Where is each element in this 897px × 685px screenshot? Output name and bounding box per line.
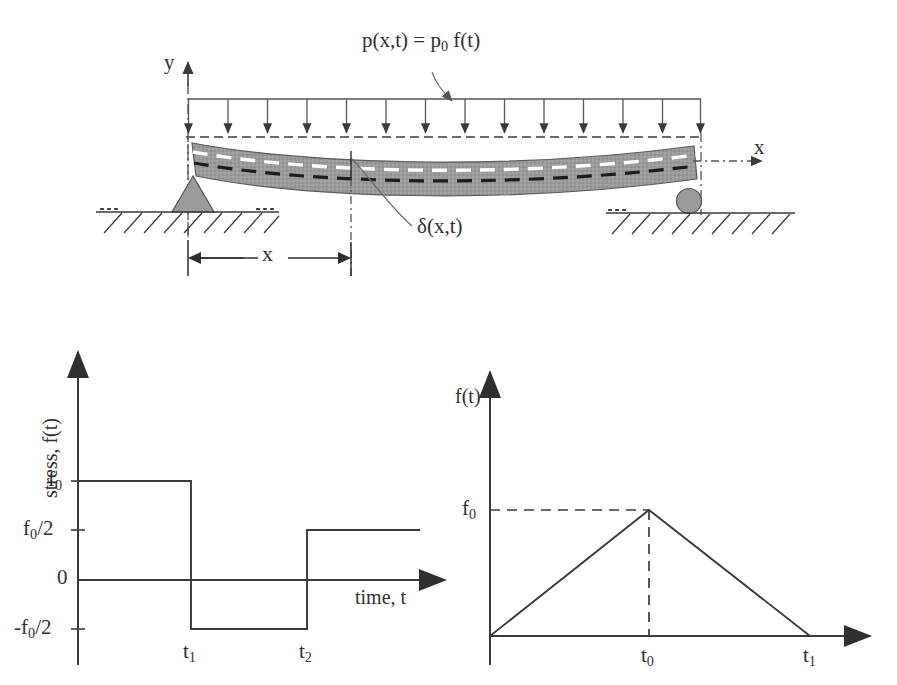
ytick-nf0h-rhs: /2 (35, 615, 51, 639)
r-xtick-t0-sub: 0 (647, 653, 654, 669)
ytick-f0h-lhs: f (23, 516, 30, 540)
ytick-f0h-rhs: /2 (37, 516, 53, 540)
chart-left-ytick-neg-f0-half: -f0/2 (14, 617, 51, 640)
ground-hatch-left (104, 213, 279, 233)
chart-left-x-axis-label: time, t (355, 587, 406, 607)
chart-right-y-axis-label: f(t) (455, 386, 481, 406)
beam-y-axis-label: y (164, 52, 175, 73)
dimension-x-label: x (262, 243, 273, 265)
deflection-label: δ(x,t) (417, 216, 462, 237)
ground-hatch-right (612, 214, 790, 234)
r-ytick-f0-sub: 0 (469, 506, 476, 522)
xtick-t1-sub: 1 (189, 649, 196, 665)
load-equation-sub: 0 (441, 38, 448, 54)
load-equation-label: p(x,t) = p0 f(t) (362, 30, 480, 53)
load-equation-rhs: f(t) (448, 28, 480, 52)
figure-root: p(x,t) = p0 f(t) y x δ(x,t) x stress, f(… (0, 0, 897, 685)
chart-left-group (71, 352, 445, 665)
chart-left-ytick-f0-half: f0/2 (23, 518, 53, 541)
chart-left-xtick-t2: t2 (299, 641, 312, 664)
chart-right-xtick-t1: t1 (803, 645, 816, 668)
beam-x-axis-label: x (754, 137, 765, 158)
distributed-load-arrows (189, 99, 701, 133)
xtick-t2-sub: 2 (305, 649, 312, 665)
chart-right-group (490, 372, 870, 665)
chart-left-ytick-f0: f0 (48, 469, 62, 492)
chart-right-ytick-f0: f0 (462, 498, 476, 521)
pin-support (172, 176, 214, 212)
ytick-nf0h-lhs: -f (14, 615, 28, 639)
figure-canvas (0, 0, 897, 685)
load-equation-lhs: p(x,t) = p (362, 28, 441, 52)
chart-right-waveform (490, 510, 810, 636)
r-xtick-t1-sub: 1 (809, 653, 816, 669)
ytick-f0-lhs: f (48, 467, 55, 491)
beam-diagram-group (96, 62, 795, 276)
r-ytick-f0-lhs: f (462, 496, 469, 520)
roller-support (677, 189, 702, 214)
chart-left-xtick-t1: t1 (183, 641, 196, 664)
load-label-leader (432, 72, 452, 101)
ytick-f0-sub: 0 (55, 477, 62, 493)
chart-left-ytick-zero: 0 (57, 567, 68, 588)
chart-right-xtick-t0: t0 (641, 645, 654, 668)
